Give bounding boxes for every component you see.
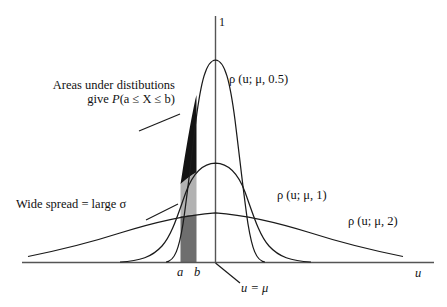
annotation-areas-line2: give P(a ≤ X ≤ b) bbox=[25, 92, 175, 106]
tick-label-a: a bbox=[177, 265, 183, 279]
annotation-areas-line1: Areas under distibutions bbox=[25, 78, 175, 92]
annotation-leader-line-areas bbox=[139, 114, 180, 131]
annotation-areas-give-text: give bbox=[87, 92, 112, 106]
curve-label-sigma-05: ρ (u; μ, 0.5) bbox=[229, 72, 288, 86]
normal-distribution-figure: 1 ρ (u; μ, 0.5) ρ (u; μ, 1) ρ (u; μ, 2) … bbox=[0, 0, 447, 307]
tick-label-b: b bbox=[194, 265, 200, 279]
annotation-wide-spread: Wide spread = large σ bbox=[16, 197, 126, 211]
annotation-leader-line-spread bbox=[146, 204, 178, 220]
annotation-probability-symbol: P bbox=[112, 92, 120, 106]
curve-label-sigma-1: ρ (u; μ, 1) bbox=[277, 188, 327, 202]
annotation-probability-expression: (a ≤ X ≤ b) bbox=[120, 92, 175, 106]
annotation-areas-under-distributions: Areas under distibutions give P(a ≤ X ≤ … bbox=[25, 78, 175, 106]
distribution-plot-svg bbox=[0, 0, 447, 307]
y-axis-top-tick-label: 1 bbox=[219, 16, 225, 29]
x-axis-label: u bbox=[415, 266, 421, 280]
mean-axis-label: u = μ bbox=[241, 281, 268, 295]
curve-label-sigma-2: ρ (u; μ, 2) bbox=[348, 214, 398, 228]
mean-leader-line bbox=[216, 263, 241, 283]
